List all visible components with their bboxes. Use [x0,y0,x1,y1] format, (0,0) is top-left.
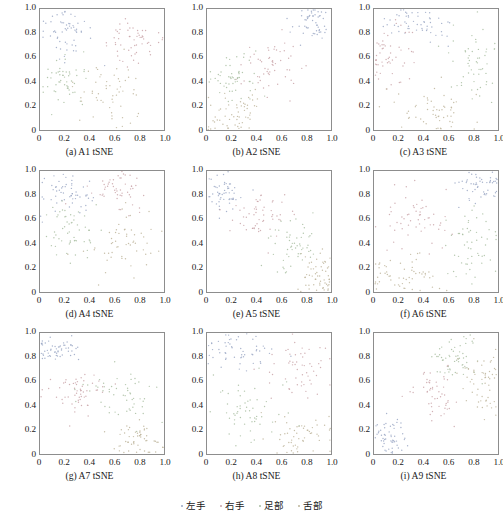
x-tick-label: 0.6 [276,133,287,143]
x-tick-label: 0.4 [418,295,429,305]
legend-item: 足部 [259,500,284,512]
y-tick-label: 0.2 [173,264,203,273]
y-tick-label: 0.6 [6,377,36,386]
y-tick-label: 0.8 [340,352,370,361]
subplot-a: 00.20.40.60.81.000.20.40.60.81.0(a) A1 t… [6,2,173,162]
x-tick-label: 0.8 [134,133,145,143]
scatter-series [42,51,86,115]
scatter-series [235,29,306,102]
scatter-canvas [374,333,498,454]
scatter-series [208,333,292,371]
x-axis-labels: 00.20.40.60.81.0 [373,457,499,469]
scatter-series [456,338,497,420]
x-tick-label: 0.8 [468,295,479,305]
x-tick-label: 0.6 [109,457,120,467]
y-tick-label: 0 [173,288,203,297]
scatter-canvas [40,9,164,130]
y-tick-label: 0.4 [340,77,370,86]
y-tick-label: 0.4 [173,401,203,410]
plot-area [39,170,165,293]
x-tick-label: 0 [37,295,42,305]
y-tick-label: 0.6 [340,215,370,224]
y-tick-label: 1.0 [173,165,203,174]
x-tick-label: 0.2 [59,457,70,467]
x-tick-label: 0 [204,457,209,467]
subplot-g: 00.20.40.60.81.000.20.40.60.81.0(g) A7 t… [6,326,173,486]
x-tick-label: 0 [37,133,42,143]
subplot-caption-d: (d) A4 tSNE [6,308,173,319]
scatter-series [209,50,266,102]
y-tick-label: 0.4 [340,401,370,410]
scatter-series [438,11,496,103]
y-tick-label: 0.2 [6,264,36,273]
y-axis-labels: 00.20.40.60.81.0 [6,8,36,131]
legend-item: 左手 [181,500,206,512]
x-tick-label: 0.8 [134,457,145,467]
subplot-caption-b: (b) A2 tSNE [173,146,340,157]
x-tick-label: 0.6 [276,457,287,467]
y-tick-label: 1.0 [6,165,36,174]
y-tick-label: 0.4 [6,239,36,248]
x-tick-label: 1.0 [326,457,337,467]
subplot-caption-a: (a) A1 tSNE [6,146,173,157]
x-tick-label: 1.0 [326,295,337,305]
scatter-series [261,412,331,454]
y-tick-label: 0 [173,450,203,459]
scatter-canvas [207,171,331,292]
scatter-series [207,89,258,130]
x-axis-labels: 00.20.40.60.81.0 [39,457,165,469]
x-axis-labels: 00.20.40.60.81.0 [206,133,332,145]
scatter-series [219,194,295,254]
subplot-b: 00.20.40.60.81.000.20.40.60.81.0(b) A2 t… [173,2,340,162]
y-tick-label: 0.2 [173,102,203,111]
x-tick-label: 1.0 [493,295,503,305]
y-tick-label: 0.2 [173,426,203,435]
y-tick-label: 0.6 [173,53,203,62]
y-tick-label: 0 [6,288,36,297]
subplot-caption-h: (h) A8 tSNE [173,470,340,481]
y-tick-label: 0.2 [6,426,36,435]
legend-label: 左手 [186,500,206,512]
scatter-series [104,419,164,453]
plot-area [373,332,499,455]
scatter-series [106,18,164,68]
scatter-series [261,212,314,273]
y-tick-label: 1.0 [6,3,36,12]
y-axis-labels: 00.20.40.60.81.0 [173,170,203,293]
figure-legend: 左手右手足部舌部 [0,500,503,512]
y-tick-label: 0.2 [340,426,370,435]
subplot-caption-e: (e) A5 tSNE [173,308,340,319]
x-axis-labels: 00.20.40.60.81.0 [206,457,332,469]
plot-area [39,8,165,131]
x-tick-label: 0.2 [59,295,70,305]
x-tick-label: 0.4 [418,133,429,143]
x-tick-label: 0.8 [468,133,479,143]
scatter-series [40,374,116,427]
y-tick-label: 0.8 [173,190,203,199]
y-tick-label: 0.4 [6,401,36,410]
scatter-series [445,205,497,284]
scatter-series [297,248,330,292]
subplot-h: 00.20.40.60.81.000.20.40.60.81.0(h) A8 t… [173,326,340,486]
x-tick-label: 0.6 [443,133,454,143]
scatter-series [454,172,497,209]
y-axis-labels: 00.20.40.60.81.0 [340,332,370,455]
scatter-series [42,11,105,66]
x-tick-label: 0.4 [84,133,95,143]
x-tick-label: 0.6 [276,295,287,305]
y-tick-label: 0.8 [6,28,36,37]
x-tick-label: 1.0 [493,457,503,467]
subplot-i: 00.20.40.60.81.000.20.40.60.81.0(i) A9 t… [340,326,503,486]
x-tick-label: 0.8 [301,457,312,467]
subplot-d: 00.20.40.60.81.000.20.40.60.81.0(d) A4 t… [6,164,173,324]
x-tick-label: 0.6 [443,295,454,305]
subplot-f: 00.20.40.60.81.000.20.40.60.81.0(f) A6 t… [340,164,503,324]
x-tick-label: 0.8 [468,457,479,467]
y-tick-label: 0.6 [173,377,203,386]
y-axis-labels: 00.20.40.60.81.0 [173,8,203,131]
plot-area [206,170,332,293]
scatter-canvas [207,9,331,130]
x-tick-label: 0.6 [109,295,120,305]
scatter-series [65,171,144,216]
y-tick-label: 0.4 [173,77,203,86]
